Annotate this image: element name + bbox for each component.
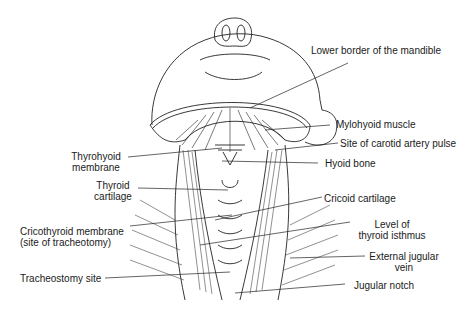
label-hyoid-bone: Hyoid bone <box>325 158 376 169</box>
label-jugular-notch: Jugular notch <box>354 280 414 291</box>
label-thyrohyoid-membrane: Thyrohyoid membrane <box>66 151 126 173</box>
label-thyroid-isthmus: Level of thyroid isthmus <box>354 219 430 241</box>
label-cricothyroid-membrane: Cricothyroid membrane (site of tracheoto… <box>20 226 124 248</box>
label-lower-border-mandible: Lower border of the mandible <box>311 45 441 56</box>
label-cricoid-cartilage: Cricoid cartilage <box>324 193 396 204</box>
label-mylohyoid-muscle: Mylohyoid muscle <box>336 119 415 130</box>
label-carotid-pulse: Site of carotid artery pulse <box>340 138 456 149</box>
label-external-jugular-vein: External jugular vein <box>366 251 442 273</box>
anatomy-diagram: Lower border of the mandible Mylohyoid m… <box>0 0 469 316</box>
label-tracheostomy-site: Tracheostomy site <box>20 273 101 284</box>
label-thyroid-cartilage: Thyroid cartilage <box>90 180 136 202</box>
